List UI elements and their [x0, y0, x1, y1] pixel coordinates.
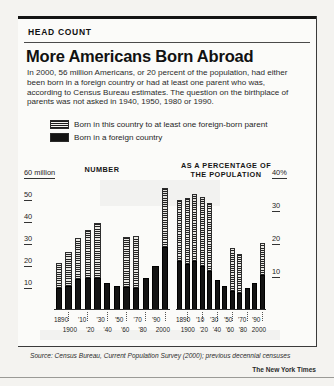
bar-group-number — [54, 160, 170, 310]
x-axis-label: '70 — [133, 316, 142, 323]
x-axis-label — [129, 326, 138, 333]
stacked-bar — [237, 254, 242, 310]
x-axis-label: '30 — [210, 316, 218, 323]
x-axis-label: '80 — [138, 326, 147, 333]
bar-slot — [229, 160, 237, 310]
bar-segment-foreign-born — [123, 287, 129, 310]
bar-slot — [54, 160, 64, 310]
bar-group-percentage — [176, 160, 266, 310]
x-axis-label: '90 — [252, 316, 260, 323]
x-axis-label — [112, 326, 121, 333]
x-axis-label: 1890 — [176, 316, 190, 323]
stacked-bar — [185, 198, 190, 310]
y-axis-tick: 50 — [24, 190, 32, 201]
x-axis-label: '40 — [213, 326, 221, 333]
stacked-bar — [85, 230, 91, 310]
bar-slot — [64, 160, 74, 310]
stacked-bar — [260, 243, 265, 310]
x-axis-label: 2000 — [156, 326, 170, 333]
bar-segment-native-born — [65, 252, 71, 286]
stacked-bar — [65, 252, 71, 310]
bar-slot — [83, 160, 93, 310]
x-axis-label: '30 — [96, 316, 105, 323]
stacked-bar — [114, 286, 120, 310]
bar-segment-foreign-born — [104, 283, 110, 310]
deck-text: In 2000, 56 million Americans, or 20 per… — [27, 68, 302, 107]
y-axis-tick: 40 — [24, 212, 32, 223]
stacked-bar — [133, 236, 139, 310]
stacked-bar — [192, 194, 197, 310]
stacked-bar — [162, 188, 168, 310]
legend-item-label: Born in a foreign country — [74, 133, 162, 142]
bar-segment-foreign-born — [185, 264, 190, 310]
plot-percentage: 1890'10'30'50'70'90 1900'20'40'60'802000 — [176, 160, 266, 310]
charts-container: NUMBER 60 million5040302010 1890'10'30'5… — [0, 150, 298, 310]
x-axis-label — [87, 316, 96, 323]
bar-slot — [214, 160, 222, 310]
bar-segment-foreign-born — [75, 279, 81, 310]
hatched-swatch-icon — [50, 120, 69, 129]
bar-slot — [176, 160, 184, 310]
y-axis-tick: 20 — [24, 256, 32, 267]
stacked-bar — [104, 283, 110, 310]
y-axis-tick: 10 — [272, 267, 280, 278]
x-axis-label: '10 — [196, 316, 204, 323]
bar-segment-native-born — [177, 200, 182, 261]
solid-swatch-icon — [50, 133, 69, 142]
bar-slot — [244, 160, 252, 310]
x-labels-lower: 1900'20'40'60'802000 — [176, 326, 266, 333]
bar-segment-foreign-born — [207, 271, 212, 310]
kicker-rule — [24, 42, 310, 43]
x-axis-label: 1900 — [63, 326, 77, 333]
plot-number: 1890'10'30'50'70'90 1900'20'40'60'802000 — [54, 160, 170, 310]
bar-slot — [236, 160, 244, 310]
x-axis-label: '60 — [121, 326, 130, 333]
bar-segment-foreign-born — [237, 293, 242, 310]
baseline — [176, 309, 266, 310]
stacked-bar — [222, 286, 227, 310]
bar-segment-native-born — [230, 248, 235, 291]
x-axis-label: 2000 — [252, 326, 266, 333]
legend-item-label: Born in this country to at least one for… — [74, 120, 267, 129]
x-axis-label: '60 — [226, 326, 234, 333]
bar-slot — [73, 160, 83, 310]
bar-segment-foreign-born — [252, 283, 257, 310]
y-axis-tick: 30 — [272, 201, 280, 212]
x-axis-label — [77, 326, 86, 333]
bar-segment-native-born — [123, 237, 129, 288]
page-title: More Americans Born Abroad — [26, 47, 310, 65]
stacked-bar — [252, 283, 257, 310]
legend: Born in this country to at least one for… — [50, 119, 310, 145]
x-axis-label — [54, 326, 63, 333]
bar-segment-native-born — [162, 188, 168, 248]
stacked-bar — [207, 203, 212, 310]
stacked-bar — [230, 248, 235, 310]
bar-segment-native-born — [207, 203, 212, 271]
bar-segment-foreign-born — [260, 275, 265, 310]
x-axis-label: '90 — [151, 316, 160, 323]
bar-segment-native-born — [75, 238, 81, 279]
bar-slot — [184, 160, 192, 310]
y-axis-tick: 20 — [272, 234, 280, 245]
x-axis-label — [260, 316, 266, 323]
bar-segment-native-born — [133, 236, 139, 288]
bar-segment-native-born — [200, 197, 205, 266]
x-axis-label — [124, 316, 133, 323]
bar-segment-foreign-born — [215, 280, 220, 310]
y-axis-tick: 40% — [272, 168, 287, 179]
source-note: Source: Census Bureau, Current Populatio… — [30, 352, 290, 359]
bar-segment-foreign-born — [152, 266, 158, 310]
x-axis-label: '80 — [239, 326, 247, 333]
x-labels-upper: 1890'10'30'50'70'90 — [54, 316, 170, 323]
x-axis-label — [161, 316, 170, 323]
bar-segment-native-born — [192, 194, 197, 261]
bar-segment-foreign-born — [192, 261, 197, 310]
bar-slot — [112, 160, 122, 310]
stacked-bar — [245, 288, 250, 310]
kicker-label: HEAD COUNT — [28, 27, 92, 37]
bar-slot — [221, 160, 229, 310]
bar-slot — [151, 160, 161, 310]
bar-segment-foreign-born — [114, 286, 120, 310]
newspaper-graphic-page: HEAD COUNT More Americans Born Abroad In… — [0, 0, 334, 386]
bar-segment-native-born — [185, 198, 190, 265]
